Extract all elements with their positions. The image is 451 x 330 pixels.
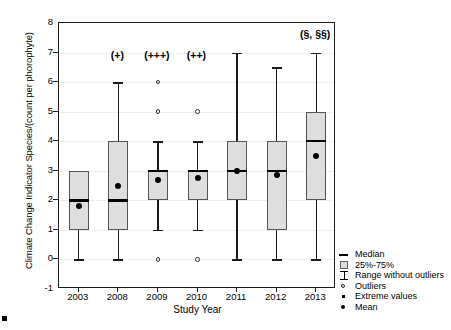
mean-marker-2008 (115, 183, 121, 189)
median-line-icon (338, 249, 352, 260)
iqr-box-2009 (148, 171, 168, 201)
mean-dot-icon (338, 302, 352, 313)
legend-label: Extreme values (354, 291, 417, 301)
extreme-square-icon (338, 291, 352, 302)
x-axis-tick-label-2011: 2011 (216, 291, 256, 302)
y-axis-tick-label: 8 (31, 16, 53, 27)
whisker-cap-lower (113, 259, 123, 261)
legend-item-iqr-swatch: 25%-75% (338, 260, 444, 271)
iqr-box-2012 (267, 141, 287, 230)
x-axis-tick-label-2003: 2003 (58, 291, 98, 302)
chart-legend: Median25%-75%Range without outliersOutli… (338, 249, 444, 312)
significance-annotation-2010: (++) (167, 49, 227, 61)
whisker-cap-upper (232, 53, 242, 55)
median-line-2003 (69, 199, 89, 201)
x-axis-tick-label-2012: 2012 (256, 291, 296, 302)
median-line-2010 (188, 170, 208, 172)
median-line-2013 (306, 140, 326, 142)
y-axis-tick-label: 0 (31, 252, 53, 263)
whisker-cap-upper (193, 141, 203, 143)
y-axis-tick-label: 3 (31, 164, 53, 175)
outlier-marker (195, 109, 199, 113)
legend-label: Outliers (354, 281, 386, 291)
outlier-marker (156, 80, 160, 84)
plot-area (58, 22, 335, 288)
significance-annotation-2013: (§, §§) (285, 28, 345, 40)
whisker-cap-lower (193, 230, 203, 232)
legend-label: Range without outliers (354, 270, 444, 280)
whisker-cap-lower (272, 259, 282, 261)
mean-marker-2012 (274, 172, 280, 178)
whisker-cap-lower (232, 259, 242, 261)
x-axis-tick-label-2009: 2009 (137, 291, 177, 302)
x-axis-label: Study Year (60, 304, 335, 315)
median-line-2008 (108, 199, 128, 201)
mean-marker-2010 (195, 175, 201, 181)
y-axis-tick-label: 1 (31, 223, 53, 234)
whisker-cap-lower (311, 259, 321, 261)
gridline (59, 82, 334, 83)
y-axis-tick-label: 6 (31, 75, 53, 86)
range-bar-icon (338, 270, 352, 281)
mean-marker-2011 (234, 168, 240, 174)
x-axis-tick-label-2013: 2013 (295, 291, 335, 302)
legend-label: Median (354, 249, 385, 259)
corner-marker-icon (2, 316, 7, 321)
y-axis-tick-label: 5 (31, 105, 53, 116)
median-line-2009 (148, 170, 168, 172)
legend-item-extreme-square: Extreme values (338, 291, 444, 302)
outlier-marker (195, 257, 199, 261)
whisker-cap-upper (311, 53, 321, 55)
legend-item-range-bar: Range without outliers (338, 270, 444, 281)
y-axis-tick-label: 7 (31, 46, 53, 57)
legend-item-median-line: Median (338, 249, 444, 260)
y-axis-tick-label: -1 (31, 282, 53, 293)
outlier-marker (156, 109, 160, 113)
whisker-cap-lower (74, 259, 84, 261)
x-axis-tick-label-2008: 2008 (97, 291, 137, 302)
legend-label: Mean (354, 302, 378, 312)
mean-marker-2003 (76, 203, 82, 209)
whisker-cap-upper (272, 67, 282, 69)
box-plot-figure: Climate Change Indicator Species/(count … (0, 0, 451, 330)
iqr-swatch-icon (338, 260, 352, 271)
legend-item-outlier-circle: Outliers (338, 281, 444, 292)
y-axis-tick-label: 2 (31, 193, 53, 204)
legend-item-mean-dot: Mean (338, 302, 444, 313)
x-axis-tick-label-2010: 2010 (177, 291, 217, 302)
mean-marker-2009 (155, 177, 161, 183)
legend-label: 25%-75% (354, 260, 394, 270)
y-axis-label: Climate Change Indicator Species/(count … (23, 20, 34, 282)
y-axis-tick-label: 4 (31, 134, 53, 145)
outlier-circle-icon (338, 281, 352, 292)
whisker-cap-upper (113, 82, 123, 84)
whisker-cap-lower (153, 230, 163, 232)
outlier-marker (156, 257, 160, 261)
whisker-cap-upper (153, 141, 163, 143)
